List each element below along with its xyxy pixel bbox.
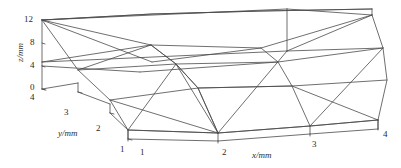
z-tick-label-4: 4 [30, 61, 35, 70]
mesh-lines [42, 9, 387, 143]
surface-plot-figure: 12 8 4 0 z/mm 4 3 2 1 y/mm 1 2 3 4 x/mm [0, 0, 401, 168]
right-ledge [287, 48, 383, 51]
interior-valley-4 [128, 64, 176, 130]
y-tick-label-3: 3 [64, 108, 69, 117]
z-tick-label-12: 12 [24, 15, 33, 24]
interior-row-mid [198, 86, 292, 88]
base-step-1-top [42, 83, 78, 89]
x-tick-label-2: 2 [222, 148, 227, 157]
interior-slope-far-right [310, 48, 383, 126]
x-tick-label-1: 1 [140, 148, 145, 157]
x-tick-label-4: 4 [383, 130, 388, 139]
x-axis-title: x/mm [252, 151, 272, 160]
mesh-row-y4-top [42, 9, 372, 20]
y-tick-label-2: 2 [96, 124, 101, 133]
z-axis-title: z/mm [16, 43, 25, 62]
x-axis-seg-1 [128, 139, 218, 141]
right-fold-edge [287, 15, 372, 51]
mesh-col-x4 [372, 15, 387, 120]
mesh-col-x3 [261, 48, 310, 126]
x-axis-seg-3 [310, 129, 378, 134]
back-panel-top [42, 9, 287, 20]
back-panel-quad [42, 9, 287, 62]
top-back-edge [42, 9, 372, 20]
wireframe-canvas [0, 0, 401, 168]
z-tick-8 [42, 43, 45, 44]
panel-edge-b [261, 11, 262, 48]
x-axis-seg-2 [218, 134, 310, 141]
y-tick-label-4: 4 [30, 93, 35, 102]
y-tick-4 [42, 89, 46, 90]
panel-edge-a [151, 14, 152, 45]
z-tick-label-8: 8 [30, 38, 35, 47]
y-axis-title: y/mm [58, 129, 78, 138]
y-tick-label-1: 1 [120, 145, 125, 154]
interior-ridge-1 [152, 48, 261, 62]
front-surface-edge [128, 120, 378, 133]
y-tick-3 [78, 92, 82, 93]
z-tick-label-0: 0 [30, 83, 35, 92]
peak-diagonal-1 [42, 20, 152, 62]
mesh-row-y4 [42, 15, 372, 48]
base-step-2-top [78, 92, 110, 104]
interior-valley-3 [176, 64, 218, 133]
x-tick-label-3: 3 [312, 140, 317, 149]
